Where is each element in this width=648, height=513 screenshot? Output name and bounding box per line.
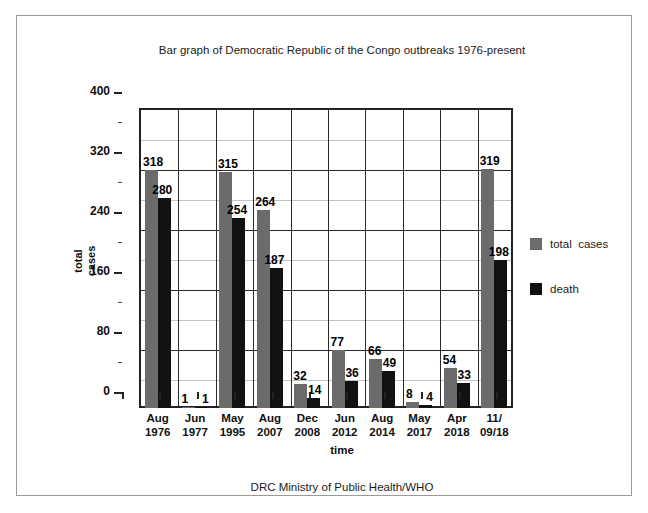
bar-value-label: 319 bbox=[480, 154, 500, 168]
bar-value-label: 4 bbox=[426, 390, 433, 404]
x-axis-tick-mark bbox=[496, 392, 498, 399]
chart-legend: total cases death bbox=[530, 238, 642, 328]
legend-item-death: death bbox=[530, 283, 642, 295]
bar-total-cases: 77 bbox=[332, 350, 345, 408]
bar-value-label: 318 bbox=[143, 155, 163, 169]
legend-swatch-death bbox=[530, 283, 542, 295]
legend-label-death: death bbox=[550, 283, 579, 295]
bar-groups: 3182801131525426418732147736664984543331… bbox=[139, 108, 513, 408]
x-axis-tick-mark bbox=[384, 392, 386, 399]
bar-pair: 7736 bbox=[332, 108, 358, 408]
y-axis-tick-label: 320 bbox=[66, 144, 110, 158]
bar-group: 318280 bbox=[139, 108, 176, 408]
bar-group: 84 bbox=[401, 108, 438, 408]
y-axis-tick-mark-minor bbox=[118, 122, 122, 123]
bar-death: 14 bbox=[307, 398, 320, 409]
bar-group: 6649 bbox=[363, 108, 400, 408]
x-axis-tick-mark bbox=[272, 392, 274, 399]
x-axis-tick-label: May 1995 bbox=[214, 411, 251, 439]
legend-label-total-cases: total cases bbox=[550, 238, 608, 250]
y-axis-tick-label: 0 bbox=[66, 384, 110, 398]
x-axis-tick-label: Jun 1977 bbox=[176, 411, 213, 439]
bar-total-cases: 32 bbox=[294, 384, 307, 408]
y-axis-tick-mark bbox=[114, 332, 122, 334]
bar-total-cases: 264 bbox=[257, 210, 270, 408]
bar-total-cases: 66 bbox=[369, 359, 382, 409]
x-axis-tick-label: Apr 2018 bbox=[438, 411, 475, 439]
y-axis-tick-mark bbox=[114, 272, 122, 274]
bar-value-label: 254 bbox=[227, 203, 247, 217]
bar-group: 319198 bbox=[476, 108, 513, 408]
legend-swatch-total-cases bbox=[530, 238, 542, 250]
bar-value-label: 264 bbox=[255, 195, 275, 209]
y-axis-tick-label: 240 bbox=[66, 204, 110, 218]
x-axis-tick-label: 11/ 09/18 bbox=[476, 411, 513, 439]
x-axis-tick-label: Jun 2012 bbox=[326, 411, 363, 439]
bar-value-label: 54 bbox=[443, 353, 456, 367]
bar-value-label: 198 bbox=[489, 245, 509, 259]
y-axis-tick-mark-minor bbox=[118, 242, 122, 243]
bar-value-label: 8 bbox=[406, 387, 413, 401]
y-axis-tick-mark bbox=[114, 92, 122, 94]
y-axis-tick-mark-minor bbox=[118, 182, 122, 183]
bar-total-cases: 54 bbox=[444, 368, 457, 409]
x-axis-tick-label: Aug 2014 bbox=[363, 411, 400, 439]
bar-pair: 264187 bbox=[257, 108, 283, 408]
bar-pair: 315254 bbox=[219, 108, 245, 408]
bar-group: 264187 bbox=[251, 108, 288, 408]
bar-pair: 318280 bbox=[145, 108, 171, 408]
bar-death: 49 bbox=[382, 371, 395, 408]
x-axis-tick-mark bbox=[159, 392, 161, 399]
bar-pair: 5433 bbox=[444, 108, 470, 408]
bar-total-cases: 1 bbox=[182, 407, 195, 408]
x-axis-tick-mark bbox=[309, 392, 311, 399]
bar-value-label: 315 bbox=[218, 157, 238, 171]
source-note: DRC Ministry of Public Health/WHO bbox=[137, 481, 547, 493]
bar-value-label: 77 bbox=[331, 335, 344, 349]
x-axis-tick-mark bbox=[197, 392, 199, 399]
bar-group: 315254 bbox=[214, 108, 251, 408]
bar-pair: 319198 bbox=[481, 108, 507, 408]
y-axis-tick-mark-minor bbox=[118, 362, 122, 363]
bar-value-label: 1 bbox=[182, 392, 189, 406]
y-axis-tick-mark bbox=[114, 212, 122, 214]
bar-death: 187 bbox=[270, 268, 283, 408]
bar-death: 254 bbox=[232, 218, 245, 409]
x-axis-tick-label: Aug 2007 bbox=[251, 411, 288, 439]
bar-pair: 84 bbox=[406, 108, 432, 408]
y-axis-tick-label: 160 bbox=[66, 264, 110, 278]
bar-total-cases: 319 bbox=[481, 169, 494, 408]
x-axis-tick-mark bbox=[234, 392, 236, 399]
bar-death: 280 bbox=[158, 198, 171, 408]
legend-item-total-cases: total cases bbox=[530, 238, 642, 250]
bar-death: 198 bbox=[494, 260, 507, 409]
bar-group: 7736 bbox=[326, 108, 363, 408]
bar-value-label: 32 bbox=[293, 369, 306, 383]
x-axis-tick-mark bbox=[122, 392, 124, 399]
x-axis-tick-label: May 2017 bbox=[401, 411, 438, 439]
y-axis-tick-mark bbox=[114, 152, 122, 154]
bar-value-label: 33 bbox=[458, 368, 471, 382]
bar-group: 11 bbox=[176, 108, 213, 408]
chart-title: Bar graph of Democratic Republic of the … bbox=[107, 42, 577, 58]
x-axis-tick-mark bbox=[459, 392, 461, 399]
bar-value-label: 187 bbox=[264, 253, 284, 267]
bar-value-label: 36 bbox=[345, 366, 358, 380]
y-axis-tick-mark-minor bbox=[118, 302, 122, 303]
bar-value-label: 280 bbox=[152, 183, 172, 197]
bar-group: 3214 bbox=[289, 108, 326, 408]
x-axis-tick-labels: Aug 1976Jun 1977May 1995Aug 2007Dec 2008… bbox=[139, 411, 513, 445]
bar-total-cases: 8 bbox=[406, 402, 419, 408]
x-axis-tick-mark bbox=[346, 392, 348, 399]
bar-value-label: 1 bbox=[202, 392, 209, 406]
bar-value-label: 49 bbox=[383, 356, 396, 370]
x-axis-tick-mark bbox=[421, 392, 423, 399]
y-axis-tick-label: 80 bbox=[66, 324, 110, 338]
bar-death: 4 bbox=[419, 405, 432, 408]
bar-pair: 6649 bbox=[369, 108, 395, 408]
bar-total-cases: 318 bbox=[145, 170, 158, 409]
bar-pair: 3214 bbox=[294, 108, 320, 408]
x-axis-title: time bbox=[287, 444, 397, 456]
bar-value-label: 66 bbox=[368, 344, 381, 358]
x-axis-tick-label: Dec 2008 bbox=[289, 411, 326, 439]
